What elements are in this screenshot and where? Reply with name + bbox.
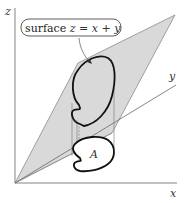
y-axis-label: y	[168, 70, 176, 83]
x-axis-label: x	[170, 187, 177, 200]
surface-integral-diagram: surface z = x + y z y x A	[0, 0, 191, 203]
callout-text: surface z = x + y	[25, 22, 121, 35]
z-axis-label: z	[4, 5, 11, 18]
region-a-label: A	[89, 148, 98, 161]
